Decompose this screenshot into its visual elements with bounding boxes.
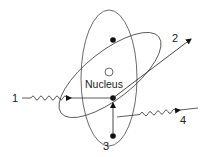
nucleus-icon <box>105 68 113 76</box>
label-ray-1: 1 <box>12 93 18 104</box>
ray-2-arrow <box>113 39 191 98</box>
atom-diagram: Nucleus 1 2 3 4 <box>0 0 209 157</box>
nucleus-label: Nucleus <box>85 79 123 90</box>
electron-top <box>110 37 116 43</box>
label-ray-4: 4 <box>180 115 186 126</box>
ray-1-arrow <box>22 96 111 100</box>
label-ray-3: 3 <box>103 141 109 152</box>
electron-bottom <box>110 133 116 139</box>
label-ray-2: 2 <box>172 33 178 44</box>
